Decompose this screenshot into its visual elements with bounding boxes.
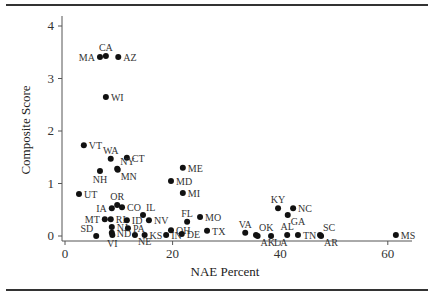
data-point [115, 54, 121, 60]
data-point [393, 232, 399, 238]
point-label: MS [401, 230, 415, 241]
point-label: KY [271, 194, 285, 205]
data-point [109, 205, 115, 211]
data-points: MACAAZWIVTWACTNYMNNHUTORIACOMTRIIDILNVSD… [76, 42, 415, 249]
point-label: IA [96, 203, 107, 214]
data-point [81, 142, 87, 148]
data-point [204, 228, 210, 234]
y-tick-label: 3 [48, 71, 55, 86]
y-tick-label: 2 [48, 123, 55, 138]
data-point [103, 94, 109, 100]
point-label: AZ [123, 52, 136, 63]
x-tick-label: 0 [62, 246, 69, 261]
y-axis-label: Composite Score [18, 85, 33, 174]
y-tick-label: 0 [48, 228, 55, 243]
data-point [284, 232, 290, 238]
data-point [146, 217, 152, 223]
point-label: MO [205, 212, 221, 223]
point-label: WA [103, 145, 119, 156]
data-point [108, 216, 114, 222]
point-label: OK [259, 222, 274, 233]
point-label: IL [146, 202, 155, 213]
data-point [119, 204, 125, 210]
data-point [180, 165, 186, 171]
data-point [242, 230, 248, 236]
data-point [179, 231, 185, 237]
x-tick-label: 40 [274, 246, 287, 261]
x-tick-label: 20 [166, 246, 179, 261]
point-label: FL [181, 208, 193, 219]
data-point [168, 178, 174, 184]
point-label: TX [212, 226, 226, 237]
point-label: SD [80, 223, 93, 234]
data-point [180, 190, 186, 196]
data-point [168, 227, 174, 233]
point-label: VT [89, 140, 102, 151]
data-point [103, 53, 109, 59]
point-label: DE [187, 229, 200, 240]
point-label: LA [274, 237, 288, 248]
point-label: CO [127, 202, 141, 213]
point-label: MD [176, 176, 192, 187]
point-label: MA [79, 52, 96, 63]
point-label: AR [324, 237, 338, 248]
point-label: NC [298, 203, 312, 214]
point-label: UT [84, 189, 97, 200]
point-label: ME [188, 163, 203, 174]
data-point [295, 232, 301, 238]
y-tick-label: 4 [48, 18, 55, 33]
y-tick-label: 1 [48, 176, 55, 191]
point-label: WI [111, 92, 124, 103]
data-point [275, 205, 281, 211]
point-label: VA [239, 219, 253, 230]
x-axis-label: NAE Percent [191, 264, 260, 279]
data-point [102, 216, 108, 222]
point-label: NV [154, 215, 169, 226]
data-point [290, 205, 296, 211]
data-point [93, 233, 99, 239]
point-label: ND [117, 228, 131, 239]
data-point [97, 54, 103, 60]
data-point [76, 191, 82, 197]
point-label: KS [150, 230, 163, 241]
scatter-chart: 012340204060 MACAAZWIVTWACTNYMNNHUTORIAC… [0, 0, 433, 299]
point-label: SC [323, 222, 336, 233]
x-tick-label: 60 [381, 246, 394, 261]
data-point [163, 232, 169, 238]
point-label: MN [121, 171, 137, 182]
point-label: GA [291, 216, 306, 227]
data-point [197, 214, 203, 220]
point-label: OR [110, 191, 124, 202]
data-point [184, 219, 190, 225]
data-point [109, 224, 115, 230]
point-label: CA [99, 42, 114, 53]
point-label: MI [188, 188, 200, 199]
point-label: VI [107, 238, 118, 249]
data-point [108, 156, 114, 162]
point-label: TN [303, 230, 316, 241]
point-label: NY [120, 156, 134, 167]
point-label: NH [93, 174, 107, 185]
data-point [142, 232, 148, 238]
